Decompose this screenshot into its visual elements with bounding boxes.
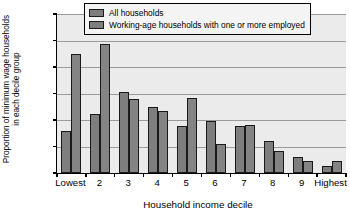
legend-item-working-age-households: Working-age households with one or more … <box>89 19 305 31</box>
y-axis-title-line1: Proportion of minimum wage households <box>2 15 11 163</box>
legend-swatch-icon <box>89 9 104 17</box>
bar <box>148 107 158 173</box>
bar-chart: Proportion of minimum wage households in… <box>0 0 350 219</box>
bar <box>100 44 110 173</box>
chart-legend: All households Working-age households wi… <box>84 3 311 35</box>
legend-swatch-icon <box>89 21 104 29</box>
plot-area <box>56 14 346 174</box>
bar <box>303 161 313 173</box>
bar <box>129 99 139 173</box>
bar <box>245 125 255 173</box>
bars-group <box>57 14 346 173</box>
bar <box>293 157 303 173</box>
bar <box>216 144 226 173</box>
bar <box>235 126 245 173</box>
y-axis-title: Proportion of minimum wage households in… <box>0 0 30 180</box>
bar <box>264 141 274 173</box>
bar <box>322 166 332 173</box>
bar <box>274 151 284 173</box>
x-axis-tick-label: Highest <box>309 177 350 188</box>
x-axis-title-text: Household income decile <box>97 199 252 210</box>
bar <box>187 98 197 173</box>
y-axis-title-line2: in each decile group <box>12 0 22 178</box>
legend-label: Working-age households with one or more … <box>109 20 305 30</box>
bar <box>61 131 71 173</box>
bar <box>158 111 168 173</box>
bar <box>332 161 342 173</box>
legend-label: All households <box>109 8 163 18</box>
legend-item-all-households: All households <box>89 7 305 19</box>
bar <box>71 54 81 173</box>
bar <box>206 121 216 173</box>
bar <box>90 114 100 173</box>
bar <box>177 126 187 173</box>
x-axis-title: Household income decile <box>0 199 350 210</box>
bar <box>119 92 129 173</box>
